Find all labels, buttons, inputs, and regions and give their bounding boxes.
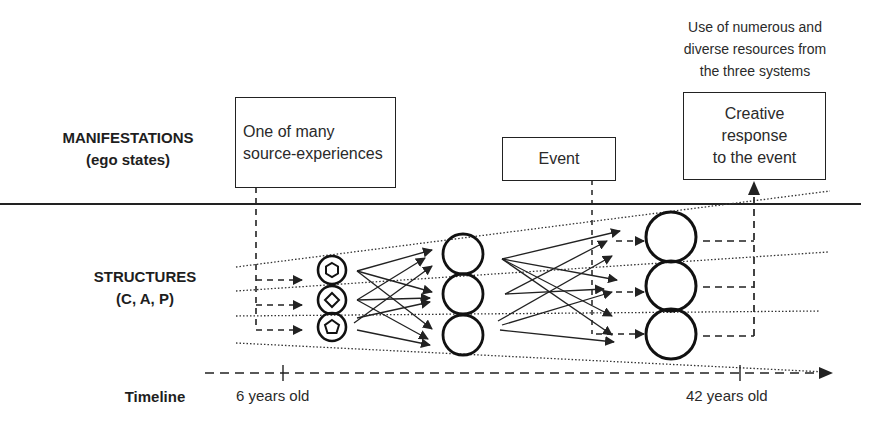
source-box-line-2: source-experiences (243, 143, 395, 165)
childhood-structures (318, 256, 346, 341)
source-box-line-1: One of many (243, 121, 395, 143)
age-label-6: 6 years old (236, 387, 309, 404)
adult-structures (646, 212, 696, 359)
annotation-line-2: diverse resources from (655, 38, 855, 60)
mid-circle-3 (443, 315, 483, 355)
resources-annotation: Use of numerous and diverse resources fr… (655, 16, 855, 82)
crossing-arrows-stage1 (354, 250, 432, 345)
mid-circle-2 (443, 274, 483, 314)
mid-circle-1 (443, 234, 483, 274)
pentagon-icon (325, 320, 339, 333)
event-box: Event (502, 137, 616, 181)
diamond-icon (325, 293, 339, 307)
adult-circle-2 (646, 261, 696, 311)
child-circle-2 (318, 286, 346, 314)
age-label-42: 42 years old (686, 387, 768, 404)
adult-circle-1 (646, 212, 696, 262)
response-box-line-3: to the event (684, 147, 825, 169)
response-box-line-1: Creative (684, 103, 825, 125)
creative-response-box: Creative response to the event (683, 92, 826, 180)
child-circle-3 (318, 313, 346, 341)
timeline-axis (205, 365, 832, 381)
inner-shapes (325, 263, 339, 333)
annotation-line-3: the three systems (655, 60, 855, 82)
annotation-line-1: Use of numerous and (655, 16, 855, 38)
hexagon-icon (326, 263, 338, 277)
adult-input-arrows (596, 241, 644, 334)
source-connectors (256, 187, 302, 330)
response-box-line-2: response (684, 125, 825, 147)
adult-circle-3 (646, 309, 696, 359)
intermediate-structures (443, 234, 483, 355)
child-circle-1 (318, 256, 346, 284)
event-box-label: Event (503, 148, 615, 170)
crossing-arrows-stage2 (498, 231, 620, 342)
source-experience-box: One of many source-experiences (235, 97, 396, 188)
